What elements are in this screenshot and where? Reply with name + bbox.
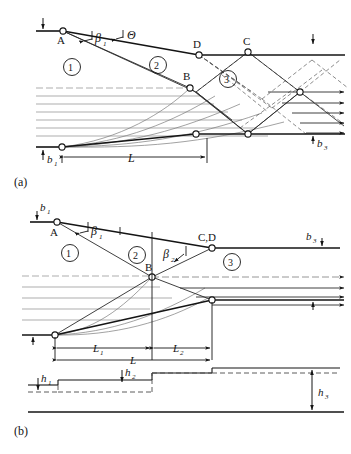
label-h2-panel-b: h — [125, 366, 131, 378]
vertex-D — [196, 52, 202, 58]
label-beta1-panel-b: β — [90, 224, 97, 238]
label-beta1-panel-a: β — [94, 31, 101, 45]
vertex-lower-mid — [193, 131, 199, 137]
label-point-B-panel-b: B — [145, 261, 152, 273]
label-region-3-panel-b: 3 — [228, 257, 233, 268]
label-beta2-sub-panel-b: 2 — [171, 256, 175, 264]
label-b1-sub-panel-a: 1 — [54, 160, 58, 168]
panel-a-streamlines-contraction — [62, 88, 284, 147]
vertex-lower-right — [245, 131, 251, 137]
label-point-A-panel-b: A — [50, 226, 58, 238]
label-beta1-sub-panel-b: 1 — [99, 233, 103, 241]
panel-a-upper-wall — [36, 31, 345, 55]
panel-a: b 1 b 3 A B D C β 1 Θ 1 2 3 — [14, 18, 348, 189]
panel-b-depth-profile-dashed — [28, 373, 340, 392]
label-region-2-panel-a: 2 — [154, 60, 159, 71]
caption-panel-a: (a) — [14, 175, 27, 189]
vertex-C — [245, 49, 251, 55]
panel-a-wave-lines-solid — [190, 52, 344, 134]
label-L-panel-a: L — [127, 151, 135, 165]
vertex-lower-left — [59, 144, 65, 150]
caption-panel-b: (b) — [14, 424, 28, 438]
vertex-A-panel-b — [54, 219, 60, 225]
label-point-D-panel-a: D — [193, 38, 201, 50]
label-theta-panel-a: Θ — [127, 28, 136, 42]
label-h1-sub-panel-b: 1 — [48, 379, 52, 387]
label-point-CD-panel-b: C,D — [198, 231, 216, 243]
figure-container: b 1 b 3 A B D C β 1 Θ 1 2 3 — [0, 0, 351, 454]
panel-b-L1-L2-dimension — [55, 290, 212, 360]
label-region-1-panel-b: 1 — [66, 248, 71, 259]
panel-b-upper-wall — [30, 222, 340, 248]
label-h3-sub-panel-b: 3 — [324, 393, 329, 401]
label-h2-sub-panel-b: 2 — [132, 373, 136, 381]
panel-a-streamlines-approach — [36, 88, 268, 136]
label-L-panel-b: L — [129, 354, 136, 366]
vertex-B — [187, 85, 193, 91]
label-L1-panel-b: L — [92, 342, 99, 354]
panel-a-region-markers: 1 2 3 — [64, 57, 237, 88]
label-b1-sub-panel-b: 1 — [47, 208, 51, 216]
label-region-3-panel-a: 3 — [224, 74, 229, 85]
label-point-C-panel-a: C — [243, 35, 250, 47]
label-b1-panel-a: b — [47, 153, 53, 165]
label-beta2-panel-b: β — [162, 247, 169, 261]
panel-a-wave-lattice-dashed — [196, 52, 348, 134]
label-point-A-panel-a: A — [57, 34, 65, 46]
label-h1-panel-b: h — [41, 372, 47, 384]
vertex-right-edge — [297, 89, 303, 95]
label-point-B-panel-a: B — [183, 70, 190, 82]
label-L1-sub-panel-b: 1 — [100, 349, 104, 357]
label-b3-panel-b: b — [306, 230, 312, 242]
vertex-CD-panel-b — [209, 245, 215, 251]
label-beta1-sub-panel-a: 1 — [103, 40, 107, 48]
diagram-svg: b 1 b 3 A B D C β 1 Θ 1 2 3 — [0, 0, 351, 454]
label-L2-panel-b: L — [172, 342, 179, 354]
label-region-1-panel-a: 1 — [68, 62, 73, 73]
label-h3-panel-b: h — [318, 386, 324, 398]
label-b3-sub-panel-b: 3 — [312, 237, 317, 245]
panel-b: b 1 b 3 A B C,D β 1 β 2 — [14, 201, 344, 438]
label-b3-sub-panel-a: 3 — [323, 144, 328, 152]
label-L2-sub-panel-b: 2 — [180, 349, 184, 357]
panel-b-depth-profile — [28, 368, 340, 385]
label-region-2-panel-b: 2 — [133, 250, 138, 261]
label-b3-panel-a: b — [317, 137, 323, 149]
label-b1-panel-b: b — [40, 201, 46, 213]
